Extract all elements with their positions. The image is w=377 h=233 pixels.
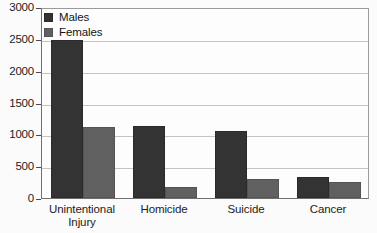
gridline <box>42 41 368 42</box>
y-tick-label: 3000 <box>0 1 34 13</box>
category-label-suicide: Suicide <box>205 203 287 216</box>
bar-females-cancer <box>329 182 361 198</box>
bar-females-suicide <box>247 179 279 198</box>
category-label-unintentional-injury: UnintentionalInjury <box>41 203 123 229</box>
chart-legend: MalesFemales <box>44 11 102 38</box>
category-label-line: Suicide <box>205 203 287 216</box>
y-tick-label: 1000 <box>0 128 34 140</box>
bar-males-homicide <box>133 126 165 198</box>
y-tick-mark <box>36 199 41 200</box>
category-label-line: Homicide <box>123 203 205 216</box>
legend-label: Males <box>59 11 89 23</box>
category-label-line: Injury <box>41 216 123 229</box>
category-label-line: Unintentional <box>41 203 123 216</box>
bar-males-unintentional-injury <box>51 40 83 198</box>
gridline <box>42 105 368 106</box>
y-tick-label: 500 <box>0 160 34 172</box>
gridline <box>42 73 368 74</box>
bar-males-suicide <box>215 131 247 198</box>
y-tick-label: 0 <box>0 192 34 204</box>
y-tick-label: 2000 <box>0 65 34 77</box>
legend-item-females: Females <box>44 26 102 38</box>
legend-swatch-females <box>44 28 53 37</box>
category-label-line: Cancer <box>287 203 369 216</box>
bar-males-cancer <box>297 177 329 198</box>
y-tick-label: 2500 <box>0 33 34 45</box>
y-tick-label: 1500 <box>0 97 34 109</box>
legend-item-males: Males <box>44 11 102 23</box>
category-label-homicide: Homicide <box>123 203 205 216</box>
bar-females-homicide <box>165 187 197 198</box>
bar-females-unintentional-injury <box>83 127 115 198</box>
bar-chart: 300025002000150010005000 UnintentionalIn… <box>0 0 377 233</box>
legend-label: Females <box>59 26 102 38</box>
category-label-cancer: Cancer <box>287 203 369 216</box>
legend-swatch-males <box>44 13 53 22</box>
